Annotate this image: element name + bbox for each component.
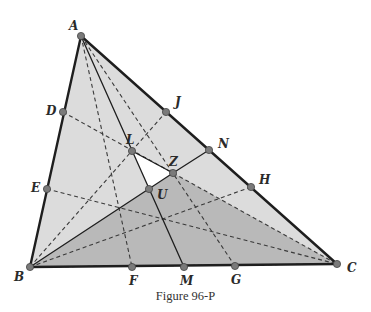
point-label-h: H <box>258 173 271 187</box>
point-j <box>162 108 169 115</box>
point-label-j: J <box>173 95 182 109</box>
point-h <box>247 183 254 190</box>
point-label-a: A <box>68 19 78 33</box>
point-g <box>231 262 238 269</box>
point-label-u: U <box>157 188 169 202</box>
point-label-b: B <box>13 270 24 284</box>
point-d <box>59 108 66 115</box>
point-u <box>145 185 152 192</box>
shaded-regions <box>30 36 337 267</box>
point-label-z: Z <box>168 155 179 169</box>
point-label-f: F <box>128 274 139 288</box>
point-label-n: N <box>217 137 230 151</box>
point-f <box>128 263 135 270</box>
point-a <box>77 32 84 39</box>
point-m <box>180 263 187 270</box>
point-l <box>128 147 135 154</box>
point-label-m: M <box>179 274 194 288</box>
point-b <box>26 263 33 270</box>
point-label-d: D <box>45 104 57 118</box>
point-label-c: C <box>347 261 357 275</box>
point-e <box>43 185 50 192</box>
point-z <box>169 169 176 176</box>
geometry-figure: ABCDEJNHFMGLZU <box>0 0 371 312</box>
point-n <box>205 146 212 153</box>
point-label-e: E <box>30 181 41 195</box>
point-c <box>333 260 340 267</box>
figure-caption: Figure 96-P <box>0 289 371 304</box>
point-label-l: L <box>125 133 134 147</box>
point-label-g: G <box>231 273 241 287</box>
